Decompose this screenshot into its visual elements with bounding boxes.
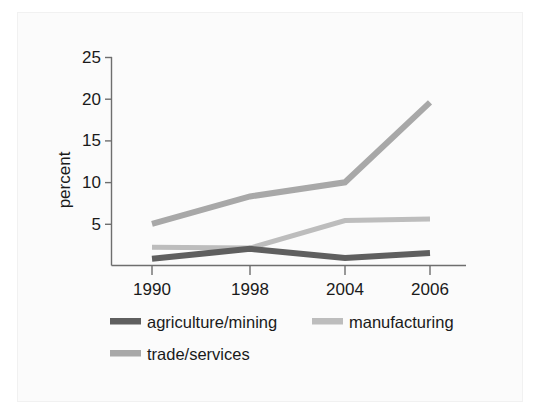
x-tick-label-1990: 1990: [133, 280, 171, 299]
legend-label-agriculture-mining: agriculture/mining: [147, 313, 277, 331]
y-tick-label-20: 20: [82, 90, 101, 109]
chart-figure: percent 25 20 15 10 5 1990 1998 2004 200…: [0, 0, 540, 416]
chart-legend: agriculture/mining manufacturing trade/s…: [110, 313, 454, 363]
legend-swatch-manufacturing: [312, 318, 343, 325]
series-line-agriculture-mining: [152, 249, 430, 259]
line-chart: percent 25 20 15 10 5 1990 1998 2004 200…: [0, 0, 540, 416]
x-tick-label-2004: 2004: [326, 280, 364, 299]
series-line-manufacturing: [152, 219, 430, 248]
legend-swatch-agriculture-mining: [110, 318, 141, 325]
y-tick-label-25: 25: [82, 48, 101, 67]
legend-swatch-trade-services: [110, 350, 141, 357]
series-line-trade-services: [152, 102, 430, 223]
y-tick-label-5: 5: [92, 215, 101, 234]
y-axis-title: percent: [55, 151, 74, 208]
legend-label-manufacturing: manufacturing: [349, 313, 454, 331]
x-tick-label-1998: 1998: [231, 280, 269, 299]
y-tick-label-10: 10: [82, 173, 101, 192]
y-tick-label-15: 15: [82, 131, 101, 150]
x-tick-label-2006: 2006: [411, 280, 449, 299]
legend-label-trade-services: trade/services: [147, 345, 250, 363]
